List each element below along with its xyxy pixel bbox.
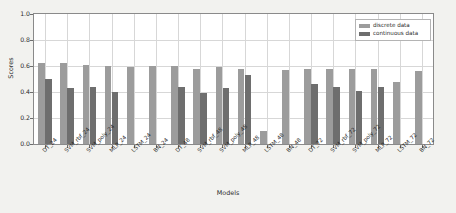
y-axis-tick-label: 0.2 — [20, 115, 30, 121]
bar-discrete — [393, 82, 400, 144]
bar-continuous — [67, 88, 74, 144]
bar-discrete — [304, 69, 311, 144]
bar-chart-figure: Scores 0.00.20.40.60.81.0 Models discret… — [0, 0, 456, 213]
legend-item-continuous: continuous data — [359, 30, 427, 38]
legend-swatch-discrete-icon — [359, 24, 370, 28]
bar-continuous — [223, 88, 230, 144]
legend-swatch-continuous-icon — [359, 32, 370, 36]
bar-continuous — [311, 84, 318, 144]
y-axis-tick-mark — [30, 118, 33, 119]
bar-continuous — [356, 91, 363, 144]
gridline-vertical — [289, 14, 290, 144]
legend-label-continuous: continuous data — [373, 31, 418, 37]
legend: discrete data continuous data — [355, 19, 431, 41]
y-axis-tick-label: 1.0 — [20, 11, 30, 17]
y-axis-tick-label: 0.4 — [20, 89, 30, 95]
bar-discrete — [171, 66, 178, 144]
gridline-horizontal — [34, 66, 433, 67]
bar-continuous — [178, 87, 185, 144]
bar-discrete — [149, 66, 156, 144]
bar-discrete — [193, 69, 200, 144]
y-axis-tick-label: 0.0 — [20, 141, 30, 147]
bar-discrete — [260, 131, 267, 144]
legend-item-discrete: discrete data — [359, 22, 427, 30]
y-axis-tick-mark — [30, 66, 33, 67]
bar-continuous — [90, 87, 97, 144]
gridline-vertical — [134, 14, 135, 144]
y-axis-tick-mark — [30, 144, 33, 145]
bar-continuous — [378, 87, 385, 144]
y-axis: Scores 0.00.20.40.60.81.0 — [0, 0, 30, 213]
bar-discrete — [127, 67, 134, 144]
bar-discrete — [38, 63, 45, 144]
bar-continuous — [245, 75, 252, 144]
y-axis-tick-mark — [30, 14, 33, 15]
bar-discrete — [60, 63, 67, 144]
y-axis-tick-mark — [30, 40, 33, 41]
gridline-vertical — [156, 14, 157, 144]
bar-discrete — [326, 69, 333, 144]
y-axis-tick-mark — [30, 92, 33, 93]
x-axis-label: Models — [0, 189, 456, 197]
bar-continuous — [200, 93, 207, 144]
y-axis-tick-label: 0.6 — [20, 63, 30, 69]
y-axis-tick-label: 0.8 — [20, 37, 30, 43]
gridline-vertical — [267, 14, 268, 144]
bar-continuous — [333, 87, 340, 144]
legend-label-discrete: discrete data — [373, 23, 410, 29]
bar-continuous — [45, 79, 52, 144]
y-axis-label: Scores — [7, 38, 15, 98]
bar-continuous — [112, 92, 119, 144]
